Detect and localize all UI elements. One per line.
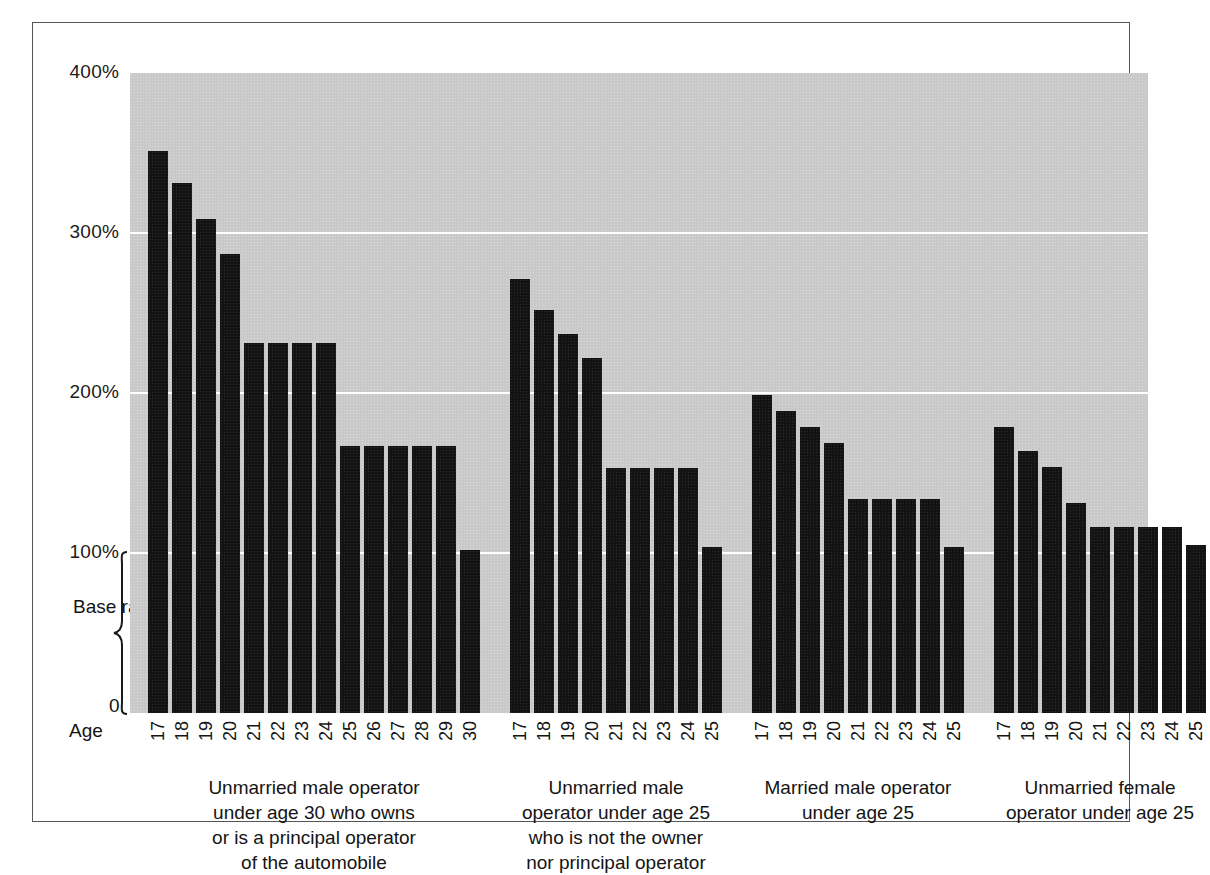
x-tick-label: 21 <box>849 721 867 741</box>
y-axis-zero-label: 0 <box>109 695 120 717</box>
bar <box>292 343 312 713</box>
chart-frame: 400%300%200%100% Base rate 0 Age 1718192… <box>32 22 1130 822</box>
y-tick-label-100: 100% <box>41 541 119 563</box>
bar <box>244 343 264 713</box>
bar <box>436 446 456 713</box>
bar <box>776 411 796 713</box>
bar <box>220 254 240 713</box>
x-tick-label: 19 <box>801 721 819 741</box>
x-tick-label: 30 <box>461 721 479 741</box>
x-tick-label: 24 <box>317 721 335 741</box>
x-tick-label: 20 <box>583 721 601 741</box>
bar <box>582 358 602 713</box>
base-rate-brace-icon <box>113 551 129 715</box>
x-tick-label: 24 <box>1163 721 1181 741</box>
x-tick-label: 20 <box>1067 721 1085 741</box>
plot-area <box>130 73 1148 713</box>
x-tick-label: 17 <box>149 721 167 741</box>
x-tick-label: 18 <box>173 721 191 741</box>
x-tick-label: 25 <box>703 721 721 741</box>
x-tick-label: 17 <box>511 721 529 741</box>
y-tick-label-400: 400% <box>41 61 119 83</box>
bar <box>1186 545 1206 713</box>
x-tick-label: 26 <box>365 721 383 741</box>
bar <box>316 343 336 713</box>
bar <box>944 547 964 713</box>
bar <box>1018 451 1038 713</box>
x-tick-label: 19 <box>559 721 577 741</box>
bar <box>172 183 192 713</box>
x-tick-label: 18 <box>1019 721 1037 741</box>
x-tick-label: 25 <box>1187 721 1205 741</box>
x-tick-label: 25 <box>945 721 963 741</box>
x-tick-label: 23 <box>655 721 673 741</box>
bar <box>702 547 722 713</box>
bar <box>800 427 820 713</box>
bar <box>606 468 626 713</box>
bar <box>510 279 530 713</box>
bar <box>630 468 650 713</box>
x-tick-label: 17 <box>753 721 771 741</box>
x-tick-label: 29 <box>437 721 455 741</box>
x-tick-label: 24 <box>921 721 939 741</box>
group-caption: Unmarried female operator under age 25 <box>950 775 1210 825</box>
x-tick-label: 19 <box>197 721 215 741</box>
x-tick-label: 17 <box>995 721 1013 741</box>
bar <box>654 468 674 713</box>
x-tick-label: 25 <box>341 721 359 741</box>
bar <box>412 446 432 713</box>
x-tick-label: 24 <box>679 721 697 741</box>
x-tick-label: 21 <box>245 721 263 741</box>
bar <box>148 151 168 713</box>
bar <box>872 499 892 713</box>
bar <box>364 446 384 713</box>
x-tick-label: 23 <box>897 721 915 741</box>
bar <box>196 219 216 713</box>
gridline-300 <box>130 232 1148 234</box>
bar <box>558 334 578 713</box>
bar <box>994 427 1014 713</box>
x-tick-label: 19 <box>1043 721 1061 741</box>
x-tick-label: 23 <box>293 721 311 741</box>
bar <box>824 443 844 713</box>
bar <box>678 468 698 713</box>
bar <box>1162 527 1182 713</box>
x-tick-label: 20 <box>221 721 239 741</box>
x-tick-label: 22 <box>269 721 287 741</box>
x-tick-label: 22 <box>873 721 891 741</box>
bar <box>340 446 360 713</box>
x-tick-label: 21 <box>607 721 625 741</box>
bar <box>460 550 480 713</box>
bar <box>752 395 772 713</box>
x-axis-label: Age <box>69 720 103 742</box>
y-tick-label-300: 300% <box>41 221 119 243</box>
bar <box>534 310 554 713</box>
bar <box>1138 527 1158 713</box>
x-tick-label: 21 <box>1091 721 1109 741</box>
bar <box>1042 467 1062 713</box>
bar <box>896 499 916 713</box>
y-tick-label-200: 200% <box>41 381 119 403</box>
bar <box>388 446 408 713</box>
bar <box>1114 527 1134 713</box>
bar <box>1066 503 1086 713</box>
x-tick-label: 18 <box>535 721 553 741</box>
bar <box>848 499 868 713</box>
bar <box>1090 527 1110 713</box>
bar <box>920 499 940 713</box>
x-tick-label: 22 <box>1115 721 1133 741</box>
x-tick-label: 27 <box>389 721 407 741</box>
x-tick-label: 22 <box>631 721 649 741</box>
group-caption: Unmarried male operator under age 30 who… <box>164 775 464 875</box>
x-tick-label: 20 <box>825 721 843 741</box>
x-tick-label: 28 <box>413 721 431 741</box>
bar <box>268 343 288 713</box>
x-tick-label: 18 <box>777 721 795 741</box>
x-tick-label: 23 <box>1139 721 1157 741</box>
